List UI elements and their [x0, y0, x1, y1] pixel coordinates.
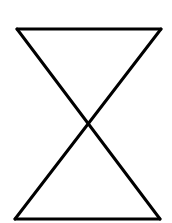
- hourglass-diagram: [0, 0, 172, 223]
